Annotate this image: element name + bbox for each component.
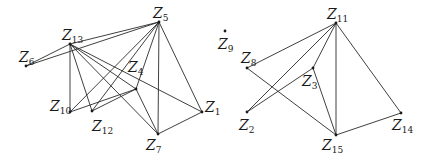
- node-label-z5: Z5: [152, 5, 169, 23]
- node-z14: [400, 112, 403, 115]
- edge-z7-z1: [158, 112, 202, 134]
- node-z3: [312, 67, 315, 70]
- node-label-z1: Z1: [204, 99, 220, 117]
- edge-z11-z3: [313, 23, 336, 68]
- labels-layer: Z1Z2Z3Z4Z5Z6Z7Z8Z9Z10Z11Z12Z13Z14Z15: [18, 5, 413, 155]
- edge-z10-z4: [70, 89, 136, 112]
- edge-z5-z7: [158, 22, 159, 134]
- node-label-z13: Z13: [61, 27, 83, 45]
- graph-diagram: Z1Z2Z3Z4Z5Z6Z7Z8Z9Z10Z11Z12Z13Z14Z15: [0, 0, 428, 159]
- edge-z5-z1: [159, 22, 202, 112]
- node-label-z15: Z15: [321, 137, 343, 155]
- node-label-z2: Z2: [238, 117, 254, 135]
- node-z5: [158, 21, 161, 24]
- node-z1: [201, 111, 204, 114]
- edge-z8-z15: [247, 68, 336, 135]
- edge-z8-z11: [247, 23, 336, 68]
- node-z2: [246, 111, 249, 114]
- node-z8: [246, 67, 249, 70]
- node-label-z6: Z6: [18, 49, 35, 67]
- node-label-z12: Z12: [91, 118, 113, 136]
- node-label-z7: Z7: [145, 137, 162, 155]
- node-z12: [91, 110, 94, 113]
- node-z15: [335, 134, 338, 137]
- edge-z5-z10: [70, 22, 159, 112]
- node-label-z9: Z9: [217, 36, 234, 54]
- edge-z13-z1: [70, 44, 202, 112]
- node-label-z4: Z4: [127, 59, 144, 77]
- node-label-z11: Z11: [326, 6, 348, 24]
- edge-z3-z15: [313, 68, 336, 135]
- node-label-z8: Z8: [240, 50, 257, 68]
- edge-z11-z14: [336, 23, 401, 113]
- node-z6: [25, 65, 28, 68]
- node-z4: [135, 88, 138, 91]
- node-label-z14: Z14: [391, 117, 413, 135]
- node-z7: [157, 133, 160, 136]
- edge-z13-z7: [70, 44, 158, 134]
- edge-z13-z4: [70, 44, 136, 89]
- edge-z2-z11: [247, 23, 336, 112]
- edge-z5-z4: [136, 22, 159, 89]
- edge-z4-z7: [136, 89, 158, 134]
- node-label-z10: Z10: [49, 98, 71, 116]
- edge-z13-z5: [70, 22, 159, 44]
- edge-z12-z4: [92, 89, 136, 111]
- edge-z5-z12: [92, 22, 159, 111]
- node-z9: [224, 30, 227, 33]
